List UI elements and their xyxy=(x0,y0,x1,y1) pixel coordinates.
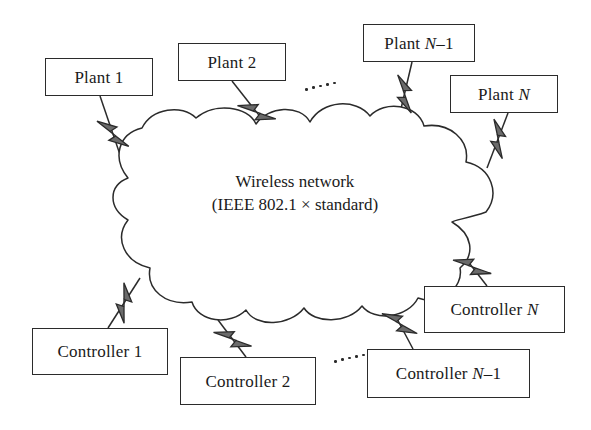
plant-n-1-label-suffix: –1 xyxy=(436,34,453,53)
controller-n-label: Controller N xyxy=(451,301,539,318)
controller-n-label-prefix: Controller xyxy=(451,300,527,319)
plant-2-label: Plant 2 xyxy=(207,54,256,71)
plant-n-1-label-symbol: N xyxy=(425,34,437,53)
wireless-link-line-plant-n xyxy=(487,113,508,168)
ellipsis-plants xyxy=(305,80,346,98)
controller-1-label-prefix: Controller xyxy=(57,342,133,361)
ellipsis-controllers-dot xyxy=(334,360,337,363)
lightning-bolt-icon-controller-2 xyxy=(214,319,252,359)
plant-1-label-suffix: 1 xyxy=(115,68,124,87)
plant-1-label-prefix: Plant xyxy=(74,68,114,87)
controller-1-label-suffix: 1 xyxy=(134,342,143,361)
ellipsis-plants-dot xyxy=(333,82,336,85)
ellipsis-plants-dot xyxy=(319,85,322,88)
plant-box-plant-n[interactable]: Plant N xyxy=(450,75,558,113)
plant-n-1-label: Plant N–1 xyxy=(384,35,453,52)
ellipsis-plants-dot xyxy=(312,86,315,89)
ellipsis-controllers-dot xyxy=(362,354,365,357)
controller-1-label: Controller 1 xyxy=(57,343,142,360)
controller-box-controller-1[interactable]: Controller 1 xyxy=(32,328,168,375)
controller-2-label-prefix: Controller xyxy=(205,372,281,391)
plant-2-label-prefix: Plant xyxy=(207,53,247,72)
plant-box-plant-n-1[interactable]: Plant N–1 xyxy=(363,24,475,62)
controller-2-label: Controller 2 xyxy=(205,373,290,390)
controller-box-controller-n[interactable]: Controller N xyxy=(424,286,565,333)
controller-n-1-label-symbol: N xyxy=(472,364,484,383)
controller-2-label-suffix: 2 xyxy=(282,372,291,391)
controller-n-1-label-suffix: –1 xyxy=(484,364,501,383)
lightning-bolt-icon-controller-1 xyxy=(106,283,143,323)
plant-2-label-suffix: 2 xyxy=(248,53,257,72)
controller-box-controller-n-1[interactable]: Controller N–1 xyxy=(367,349,530,398)
wireless-network-diagram: Wireless network (IEEE 802.1 × standard)… xyxy=(0,0,591,430)
controller-n-label-symbol: N xyxy=(527,300,539,319)
ellipsis-controllers-dot xyxy=(348,357,351,360)
plant-box-plant-1[interactable]: Plant 1 xyxy=(45,58,153,96)
ellipsis-plants-dot xyxy=(305,88,308,91)
plant-1-label: Plant 1 xyxy=(74,69,123,86)
plant-n-label: Plant N xyxy=(478,86,530,103)
controller-n-1-label: Controller N–1 xyxy=(396,365,501,382)
controller-box-controller-2[interactable]: Controller 2 xyxy=(180,357,316,405)
controller-n-1-label-prefix: Controller xyxy=(396,364,472,383)
ellipsis-controllers-dot xyxy=(355,355,358,358)
ellipsis-controllers-dot xyxy=(341,358,344,361)
plant-n-label-symbol: N xyxy=(518,85,530,104)
plant-n-label-prefix: Plant xyxy=(478,85,518,104)
lightning-bolt-icon-plant-n xyxy=(482,119,515,159)
plant-box-plant-2[interactable]: Plant 2 xyxy=(178,43,286,81)
ellipsis-plants-dot xyxy=(326,83,329,86)
plant-n-1-label-prefix: Plant xyxy=(384,34,424,53)
ellipsis-controllers xyxy=(334,352,375,370)
